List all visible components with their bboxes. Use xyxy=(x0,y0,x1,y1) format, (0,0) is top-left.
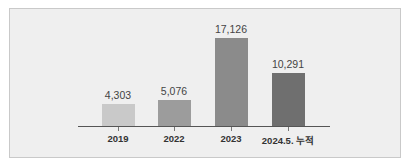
bar-2 xyxy=(215,38,248,126)
x-tick xyxy=(231,127,232,131)
category-label: 2024.5. 누적 xyxy=(253,133,323,147)
x-tick xyxy=(118,127,119,131)
x-tick xyxy=(174,127,175,131)
x-tick xyxy=(288,127,289,131)
value-label: 5,076 xyxy=(144,85,204,97)
x-axis-line xyxy=(78,126,330,127)
bar-3 xyxy=(272,73,305,126)
bar-0 xyxy=(102,104,135,126)
bar-1 xyxy=(158,100,191,126)
value-label: 4,303 xyxy=(88,89,148,101)
value-label: 17,126 xyxy=(201,23,261,35)
value-label: 10,291 xyxy=(258,58,318,70)
